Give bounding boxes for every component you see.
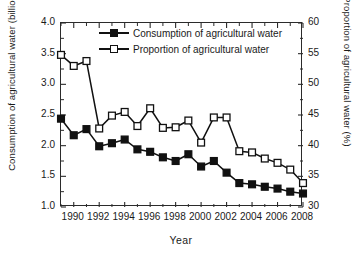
y-tick-label-right: 50 <box>308 77 342 88</box>
data-point <box>287 166 294 173</box>
data-point <box>58 115 65 122</box>
y-axis-left-title: Consumption of agricultural water (billi… <box>5 0 17 189</box>
data-point <box>210 158 217 165</box>
data-point <box>83 58 90 65</box>
data-point <box>261 155 268 162</box>
data-point <box>70 63 77 70</box>
data-point <box>172 158 179 165</box>
data-point <box>185 151 192 158</box>
data-point <box>249 149 256 156</box>
data-point <box>121 109 128 116</box>
data-point <box>147 148 154 155</box>
legend-item[interactable]: Proportion of agricultural water <box>99 42 282 56</box>
data-point <box>274 185 281 192</box>
y-tick-label-left: 3.0 <box>21 77 55 88</box>
y-tick-label-right: 55 <box>308 47 342 58</box>
y-tick-label-right: 60 <box>308 16 342 27</box>
y-tick-label-right: 35 <box>308 169 342 180</box>
data-point <box>159 124 166 131</box>
data-point <box>96 125 103 132</box>
data-point <box>236 180 243 187</box>
data-point <box>198 163 205 170</box>
data-point <box>96 143 103 150</box>
x-tick-label: 2008 <box>282 211 322 222</box>
legend: Consumption of agricultural waterProport… <box>99 26 282 58</box>
data-point <box>210 114 217 121</box>
data-point <box>134 146 141 153</box>
data-point <box>172 124 179 131</box>
legend-marker-open-square-icon <box>99 44 129 54</box>
data-point <box>185 117 192 124</box>
y-tick-label-left: 2.5 <box>21 108 55 119</box>
data-point <box>261 183 268 190</box>
data-point <box>83 126 90 133</box>
data-point <box>198 139 205 146</box>
y-tick-label-left: 1.5 <box>21 169 55 180</box>
y-tick-label-left: 2.0 <box>21 139 55 150</box>
y-tick-label-right: 45 <box>308 108 342 119</box>
data-point <box>287 188 294 195</box>
legend-label: Proportion of agricultural water <box>133 44 269 55</box>
legend-marker-filled-square-icon <box>99 28 129 38</box>
y-axis-left-title-main: Consumption of agricultural water (billi… <box>6 0 17 171</box>
y-tick-label-right: 40 <box>308 139 342 150</box>
data-point <box>236 148 243 155</box>
data-point <box>70 132 77 139</box>
data-point <box>249 181 256 188</box>
data-point <box>121 136 128 143</box>
data-point <box>300 190 307 197</box>
data-point <box>274 159 281 166</box>
data-point <box>58 51 65 58</box>
y-axis-right-title: Proportion of agricultural water (%) <box>342 0 353 187</box>
y-tick-label-left: 4.0 <box>21 16 55 27</box>
series-line-1 <box>61 55 303 183</box>
data-point <box>109 140 116 147</box>
y-tick-label-right: 30 <box>308 200 342 211</box>
y-tick-label-left: 3.5 <box>21 47 55 58</box>
y-tick-label-left: 1.0 <box>21 200 55 211</box>
data-point <box>134 123 141 130</box>
x-axis-title: Year <box>60 234 302 246</box>
data-point <box>109 112 116 119</box>
data-point <box>223 169 230 176</box>
data-point <box>159 154 166 161</box>
legend-label: Consumption of agricultural water <box>133 28 282 39</box>
data-point <box>147 105 154 112</box>
legend-item[interactable]: Consumption of agricultural water <box>99 26 282 40</box>
data-point <box>300 180 307 187</box>
data-point <box>223 114 230 121</box>
